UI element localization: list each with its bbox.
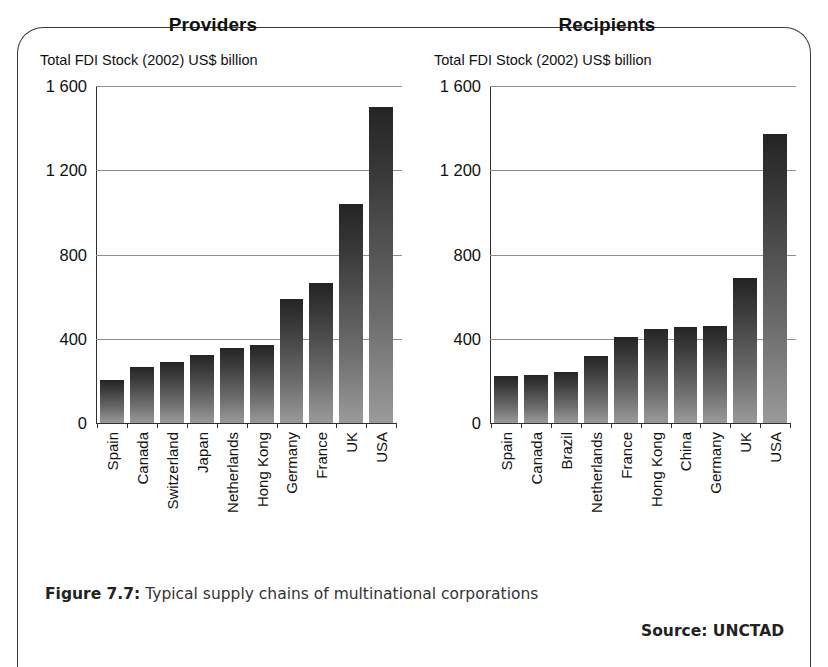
x-axis-tick: [127, 423, 128, 428]
x-axis-tick: [396, 423, 397, 428]
x-axis-tick: [790, 423, 791, 428]
chart-title-providers: Providers: [18, 14, 408, 36]
x-axis-tick: [671, 423, 672, 428]
x-axis-tick: [551, 423, 552, 428]
y-axis-tick-label: 800: [59, 245, 87, 264]
x-axis-tick: [366, 423, 367, 428]
figure-caption-text: Typical supply chains of multinational c…: [140, 585, 538, 603]
x-axis-tick: [336, 423, 337, 428]
bar: [733, 278, 757, 423]
x-axis-tick-label: UK: [737, 432, 754, 453]
bar-group: Hong Kong: [247, 86, 277, 423]
y-axis-tick-label: 1 200: [46, 161, 87, 180]
y-axis-tick-label: 800: [453, 245, 481, 264]
chart-title-recipients: Recipients: [412, 14, 802, 36]
x-axis-tick: [581, 423, 582, 428]
y-axis-tick-label: 0: [472, 414, 481, 433]
y-axis-tick: [396, 255, 402, 256]
y-axis-tick: [790, 86, 796, 87]
x-axis-tick-label: USA: [373, 432, 390, 463]
x-axis-tick-label: China: [677, 432, 694, 471]
y-axis-tick: [396, 86, 402, 87]
bar: [524, 375, 548, 423]
x-axis-tick-label: France: [617, 432, 634, 479]
figure-caption: Figure 7.7: Typical supply chains of mul…: [45, 585, 538, 603]
bar: [160, 362, 184, 423]
bar: [309, 283, 333, 423]
bar: [644, 329, 668, 423]
x-axis-tick: [306, 423, 307, 428]
bar: [494, 376, 518, 423]
y-axis-tick: [790, 339, 796, 340]
y-axis-tick: [790, 170, 796, 171]
x-axis-tick-label: France: [313, 432, 330, 479]
bars-providers: SpainCanadaSwitzerlandJapanNetherlandsHo…: [97, 86, 396, 423]
charts-container: Providers Total FDI Stock (2002) US$ bil…: [0, 0, 828, 570]
x-axis-tick-label: Japan: [193, 432, 210, 473]
bar-group: UK: [336, 86, 366, 423]
bar-group: Canada: [127, 86, 157, 423]
y-axis-caption-recipients: Total FDI Stock (2002) US$ billion: [434, 52, 652, 68]
plot-area-providers: 04008001 2001 600 SpainCanadaSwitzerland…: [96, 86, 396, 423]
bar: [130, 367, 154, 423]
x-axis-tick-label: Germany: [707, 432, 724, 494]
bar-group: China: [671, 86, 701, 423]
x-axis-tick: [97, 423, 98, 428]
x-axis-tick: [641, 423, 642, 428]
bar-group: Hong Kong: [641, 86, 671, 423]
x-axis-tick: [700, 423, 701, 428]
y-axis-caption-providers: Total FDI Stock (2002) US$ billion: [40, 52, 258, 68]
bar-group: Spain: [97, 86, 127, 423]
bar: [369, 107, 393, 423]
bar-group: Brazil: [551, 86, 581, 423]
bar: [584, 356, 608, 423]
bars-recipients: SpainCanadaBrazilNetherlandsFranceHong K…: [491, 86, 790, 423]
x-axis-tick: [491, 423, 492, 428]
x-axis-tick-label: Germany: [283, 432, 300, 494]
x-axis-tick-label: UK: [343, 432, 360, 453]
x-axis-tick-label: USA: [767, 432, 784, 463]
bar: [100, 380, 124, 423]
figure-source: Source: UNCTAD: [641, 622, 784, 640]
x-axis-tick: [187, 423, 188, 428]
x-axis-tick-label: Netherlands: [223, 432, 240, 513]
bar-group: USA: [760, 86, 790, 423]
bar: [614, 337, 638, 423]
bar: [763, 134, 787, 423]
bar-group: USA: [366, 86, 396, 423]
y-axis-tick-label: 0: [78, 414, 87, 433]
y-axis-tick-label: 400: [59, 329, 87, 348]
y-axis-tick-label: 1 200: [440, 161, 481, 180]
bar-group: Japan: [187, 86, 217, 423]
x-axis-tick-label: Spain: [498, 432, 515, 470]
chart-panel-providers: Providers Total FDI Stock (2002) US$ bil…: [18, 0, 408, 570]
bar-group: France: [306, 86, 336, 423]
x-axis-tick-label: Spain: [104, 432, 121, 470]
chart-panel-recipients: Recipients Total FDI Stock (2002) US$ bi…: [412, 0, 802, 570]
x-axis-tick-label: Netherlands: [587, 432, 604, 513]
y-axis-tick: [396, 170, 402, 171]
bar-group: Netherlands: [581, 86, 611, 423]
x-axis-tick-label: Hong Kong: [253, 432, 270, 507]
x-axis-tick-label: Canada: [134, 432, 151, 485]
x-axis-tick: [157, 423, 158, 428]
x-axis-tick: [611, 423, 612, 428]
bar: [250, 345, 274, 423]
bar-group: Switzerland: [157, 86, 187, 423]
x-axis-tick-label: Brazil: [558, 432, 575, 470]
x-axis-tick: [760, 423, 761, 428]
plot-area-recipients: 04008001 2001 600 SpainCanadaBrazilNethe…: [490, 86, 790, 423]
x-axis-tick-label: Switzerland: [164, 432, 181, 510]
bar-group: France: [611, 86, 641, 423]
x-axis-tick-label: Hong Kong: [647, 432, 664, 507]
bar: [674, 327, 698, 423]
bar: [339, 204, 363, 423]
bar-group: Netherlands: [217, 86, 247, 423]
bar-group: Canada: [521, 86, 551, 423]
bar: [220, 348, 244, 423]
bar-group: Germany: [700, 86, 730, 423]
bar: [703, 326, 727, 423]
bar: [280, 299, 304, 423]
x-axis-tick: [247, 423, 248, 428]
bar-group: Spain: [491, 86, 521, 423]
